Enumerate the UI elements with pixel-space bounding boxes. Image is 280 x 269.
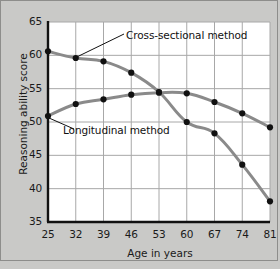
x-axis-title: Age in years	[45, 247, 275, 259]
x-tick-label: 46	[119, 228, 143, 240]
series-label-longitudinal: Longitudinal method	[63, 124, 170, 136]
y-axis-title: Reasoning ability score	[17, 44, 29, 184]
x-tick-label: 81	[258, 228, 280, 240]
x-tick-label: 32	[64, 228, 88, 240]
x-tick-label: 25	[36, 228, 60, 240]
x-tick-label: 53	[147, 228, 171, 240]
y-tick-label: 65	[20, 15, 42, 27]
x-tick-label: 39	[92, 228, 116, 240]
x-tick-label: 60	[175, 228, 199, 240]
series-label-cross-sectional: Cross-sectional method	[126, 29, 247, 41]
chart-figure: 35404550556065 253239465360677481 Reason…	[0, 0, 280, 269]
x-tick-label: 74	[230, 228, 254, 240]
y-tick-label: 35	[20, 215, 42, 227]
x-tick-label: 67	[203, 228, 227, 240]
